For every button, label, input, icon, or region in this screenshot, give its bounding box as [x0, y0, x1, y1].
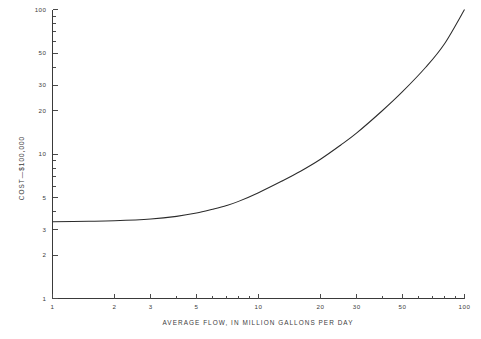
x-tick-label: 5 [195, 303, 199, 310]
y-tick-label: 50 [39, 49, 47, 56]
x-tick-label: 10 [255, 303, 263, 310]
x-tick-label: 2 [113, 303, 117, 310]
y-tick-label: 30 [39, 81, 47, 88]
x-axis-ticks [53, 294, 465, 299]
y-tick-label: 10 [39, 150, 47, 157]
y-axis-ticks [53, 10, 58, 299]
chart-page: 123510203050100 123510203050100 AVERAGE … [0, 0, 481, 339]
y-tick-label: 100 [35, 6, 47, 13]
y-axis-tick-labels: 123510203050100 [35, 6, 47, 302]
x-axis-tick-labels: 123510203050100 [51, 303, 471, 310]
y-tick-label: 20 [39, 107, 47, 114]
cost-vs-flow-chart: 123510203050100 123510203050100 AVERAGE … [0, 0, 481, 339]
y-tick-label: 2 [43, 251, 47, 258]
x-tick-label: 50 [399, 303, 407, 310]
x-tick-label: 20 [317, 303, 325, 310]
x-tick-label: 1 [51, 303, 55, 310]
y-tick-label: 1 [43, 295, 47, 302]
cost-curve [53, 10, 465, 222]
y-axis-title: COST—$100,000 [18, 136, 25, 200]
y-tick-label: 5 [43, 194, 47, 201]
x-tick-label: 30 [353, 303, 361, 310]
x-axis-title: AVERAGE FLOW, IN MILLION GALLONS PER DAY [163, 319, 354, 326]
x-tick-label: 100 [459, 303, 471, 310]
y-tick-label: 3 [43, 226, 47, 233]
x-tick-label: 3 [149, 303, 153, 310]
